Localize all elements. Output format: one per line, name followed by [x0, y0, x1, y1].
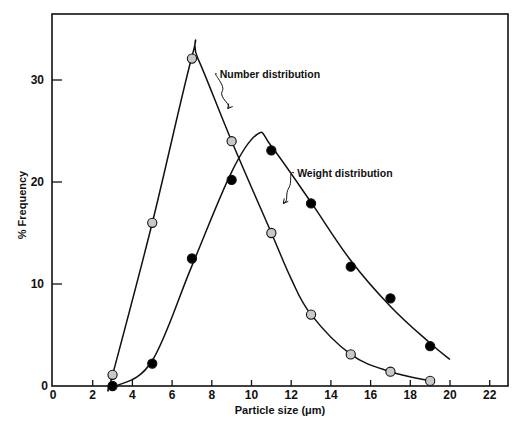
y-tick-label: 0 — [41, 379, 48, 393]
annotation-label: Number distribution — [220, 68, 320, 80]
y-tick-label: 30 — [31, 73, 45, 87]
number-distribution-point — [386, 367, 395, 376]
x-tick-label: 2 — [89, 388, 96, 402]
y-tick-label: 20 — [31, 175, 45, 189]
x-axis-label: Particle size (μm) — [235, 404, 326, 416]
series-markers — [108, 54, 435, 391]
series-curves — [108, 40, 450, 391]
number-distribution-point — [187, 54, 196, 63]
number-distribution-point — [148, 218, 157, 227]
weight-distribution-point — [187, 254, 196, 263]
weight-distribution-point — [346, 262, 355, 271]
x-tick-label: 8 — [208, 388, 215, 402]
number-distribution-point — [426, 376, 435, 385]
x-tick-label: 22 — [483, 388, 497, 402]
x-tick-label: 4 — [129, 388, 136, 402]
number-distribution-point — [346, 350, 355, 359]
x-tick-label: 6 — [169, 388, 176, 402]
weight-distribution-point — [148, 359, 157, 368]
weight-distribution-point — [227, 175, 236, 184]
particle-size-chart: 0246810121416182022 0102030 Number distr… — [0, 0, 524, 427]
x-tick-label: 12 — [285, 388, 299, 402]
weight-distribution-point — [386, 294, 395, 303]
x-tick-label: 18 — [404, 388, 418, 402]
weight-distribution-point — [108, 381, 117, 390]
weight-distribution-curve — [109, 132, 450, 388]
x-tick-label: 14 — [324, 388, 338, 402]
y-axis-label: % Frequency — [16, 170, 28, 239]
x-tick-label: 16 — [364, 388, 378, 402]
x-tick-label: 20 — [443, 388, 457, 402]
annotations: Number distributionWeight distribution — [215, 68, 392, 203]
number-distribution-point — [108, 370, 117, 379]
y-tick-label: 10 — [31, 277, 45, 291]
annotation-leader — [283, 172, 294, 203]
number-distribution-point — [227, 137, 236, 146]
number-distribution-point — [306, 310, 315, 319]
number-distribution-point — [267, 228, 276, 237]
number-distribution-curve — [108, 40, 430, 391]
arrowhead-icon — [228, 104, 233, 109]
weight-distribution-point — [306, 199, 315, 208]
y-axis-ticks: 0102030 — [31, 73, 62, 393]
annotation-label: Weight distribution — [297, 167, 392, 179]
x-tick-label: 0 — [50, 388, 57, 402]
weight-distribution-point — [267, 146, 276, 155]
weight-distribution-point — [426, 342, 435, 351]
x-tick-label: 10 — [245, 388, 259, 402]
